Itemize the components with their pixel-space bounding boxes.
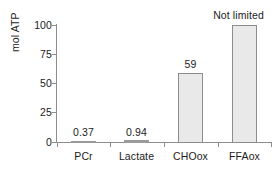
bar-value-lactate: 0.94 [111, 126, 162, 138]
y-tick-label-50: 50 [18, 77, 52, 89]
bar-chart: mol ATP 100 75 50 25 0 0.37 0.94 59 Not … [0, 0, 278, 175]
bar-choox [178, 73, 203, 143]
bar-ffaox [232, 25, 257, 143]
bar-value-choox: 59 [165, 58, 216, 70]
y-axis-line [56, 24, 57, 143]
bar-value-pcr: 0.37 [58, 126, 109, 138]
x-category-label-choox: CHOox [165, 150, 216, 162]
x-category-label-ffaox: FFAox [219, 150, 270, 162]
x-tick-mark-1 [110, 143, 111, 147]
bar-value-ffaox: Not limited [199, 9, 278, 21]
x-tick-mark-0 [57, 143, 58, 147]
bar-pcr [71, 141, 96, 143]
x-tick-mark-2 [164, 143, 165, 147]
y-tick-label-25: 25 [18, 106, 52, 118]
x-category-label-pcr: PCr [58, 150, 109, 162]
y-tick-label-100: 100 [18, 19, 52, 31]
x-tick-mark-4 [271, 143, 272, 147]
bar-lactate [124, 140, 149, 143]
y-tick-label-75: 75 [18, 48, 52, 60]
x-tick-mark-3 [218, 143, 219, 147]
x-category-label-lactate: Lactate [111, 150, 162, 162]
y-tick-label-0: 0 [18, 136, 52, 148]
